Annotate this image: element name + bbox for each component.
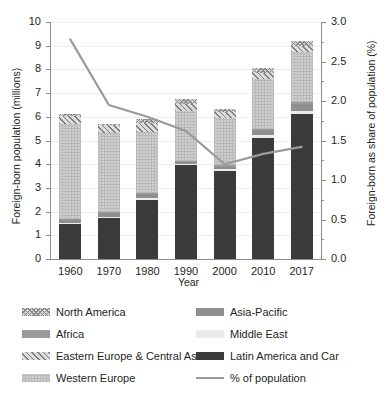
y-axis-right-title: Foreign-born as share of population (%) [365,66,377,226]
legend-label: Latin America and Car [230,350,339,362]
y-right-tick-label: 2.0 [331,95,371,106]
y-right-tick-label: 3.0 [331,16,371,27]
north-america-swatch [22,308,50,316]
y-tick-label: 1 [1,229,41,240]
legend-item[interactable]: Middle East [196,325,287,342]
legend-item[interactable]: Asia-Pacific [196,303,287,320]
y-right-tick-label: 1.0 [331,174,371,185]
legend-item[interactable]: % of population [196,369,306,386]
asia-pacific-swatch [196,308,224,316]
legend-label: Western Europe [56,372,135,384]
legend-item[interactable]: Western Europe [22,369,135,386]
x-tick-label: 2017 [279,265,325,277]
y-tick-label: 6 [1,111,41,122]
legend-label: Middle East [230,328,287,340]
chart-container: Foreign-born population (millions) Forei… [0,0,377,394]
y-tick-label: 7 [1,87,41,98]
legend-item[interactable]: Latin America and Car [196,347,339,364]
eastern-europe-swatch [22,352,50,360]
y-right-tick-label: 0.0 [331,253,371,264]
y-tick-label: 0 [1,253,41,264]
legend-item[interactable]: Africa [22,325,84,342]
legend-label: Africa [56,328,84,340]
western-europe-swatch [22,374,50,382]
y-tick-label: 10 [1,16,41,27]
y-tick-label: 4 [1,158,41,169]
latin-america-swatch [196,352,224,360]
plot-frame: 012345678910 0.00.51.01.52.02.53.0 19601… [51,22,321,259]
x-axis-line [50,259,322,260]
y-right-tick-label: 0.5 [331,214,371,225]
y-tick-label: 9 [1,40,41,51]
africa-swatch [22,330,50,338]
y-axis-right-line [321,22,322,259]
legend-item[interactable]: North America [22,303,126,320]
y-tick-label: 2 [1,206,41,217]
legend-label: Eastern Europe & Central Asia [56,350,205,362]
percent-line-swatch [196,374,224,382]
percent-line-series [51,22,321,259]
y-tick-label: 8 [1,63,41,74]
legend-item[interactable]: Eastern Europe & Central Asia [22,347,205,364]
middle-east-swatch [196,330,224,338]
y-right-tick-label: 2.5 [331,56,371,67]
y-right-tick-label: 1.5 [331,135,371,146]
legend-label: North America [56,306,126,318]
plot-area: 012345678910 0.00.51.01.52.02.53.0 19601… [51,22,321,259]
legend-label: % of population [230,372,306,384]
y-tick-label: 5 [1,135,41,146]
x-axis-title: Year [0,276,377,288]
legend-label: Asia-Pacific [230,306,287,318]
y-tick-label: 3 [1,182,41,193]
chart-legend: North AmericaAsia-PacificAfricaMiddle Ea… [0,299,377,394]
